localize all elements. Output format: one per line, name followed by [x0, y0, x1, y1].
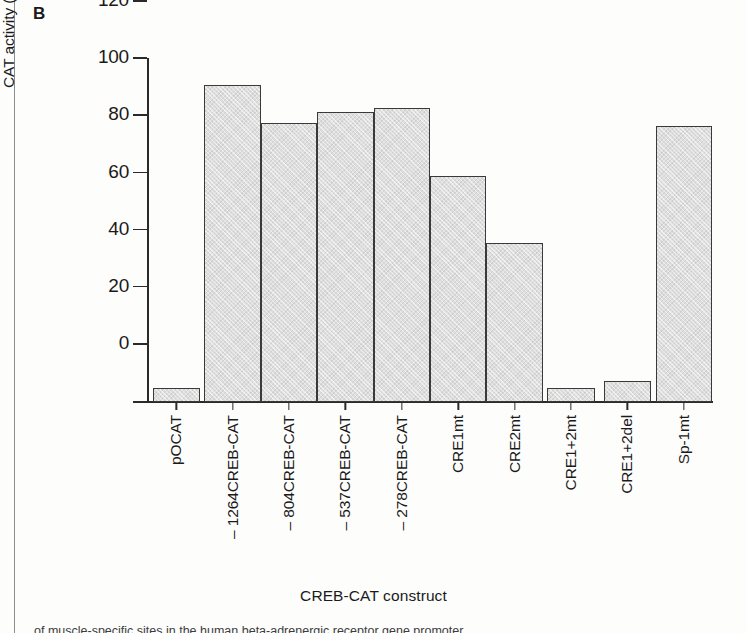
bar-slot — [317, 59, 373, 402]
bar — [656, 126, 712, 402]
y-axis-tick-label: 40 — [108, 218, 129, 240]
x-axis-tick-slot: – 278CREB-CAT — [374, 403, 430, 573]
bar-slot — [543, 59, 599, 402]
x-axis-tick-slot: – 537CREB-CAT — [317, 403, 373, 573]
x-axis-tick — [232, 403, 233, 410]
bar — [430, 176, 486, 402]
x-axis-tick-labels: pOCAT– 1264CREB-CAT– 804CREB-CAT– 537CRE… — [148, 403, 712, 573]
bar — [604, 381, 651, 402]
x-axis-tick-label: CRE1+2del — [618, 415, 636, 494]
x-axis-tick — [458, 403, 459, 410]
x-axis-tick-slot: CRE1+2del — [599, 403, 655, 573]
x-axis-tick-slot: Sp-1mt — [656, 403, 712, 573]
bar — [261, 123, 317, 402]
x-axis-tick-slot: – 804CREB-CAT — [261, 403, 317, 573]
x-axis-tick — [288, 403, 289, 410]
y-axis-tick-label: 0 — [119, 332, 129, 354]
y-axis-tick — [133, 114, 147, 116]
x-axis-tick-label: – 804CREB-CAT — [280, 415, 298, 531]
caption-fragment: of muscle-specific sites in the human be… — [34, 624, 724, 633]
x-axis-tick-label: Sp-1mt — [675, 415, 693, 464]
x-axis-tick-label: pOCAT — [167, 415, 185, 465]
x-axis-tick-slot: – 1264CREB-CAT — [204, 403, 260, 573]
x-axis-tick-label: – 1264CREB-CAT — [224, 415, 242, 539]
x-axis-tick-label: CRE1+2mt — [562, 415, 580, 490]
bar — [374, 108, 430, 402]
x-axis-tick — [514, 403, 515, 410]
x-axis-tick-label: – 278CREB-CAT — [393, 415, 411, 531]
bar-slot — [148, 59, 204, 402]
x-axis-tick — [345, 403, 346, 410]
y-axis-ticks: 020406080100120 — [0, 0, 147, 345]
bar-slot — [599, 59, 655, 402]
bar-slot — [656, 59, 712, 402]
x-axis-tick-label: CRE2mt — [506, 415, 524, 473]
x-axis-tick — [401, 403, 402, 410]
bar — [547, 388, 594, 402]
y-axis-tick — [133, 57, 147, 59]
y-axis-tick-label: 80 — [108, 103, 129, 125]
y-axis-tick — [133, 0, 147, 2]
y-axis-tick — [133, 172, 147, 174]
bar-slot — [204, 59, 260, 402]
x-axis-tick — [570, 403, 571, 410]
bar — [153, 388, 200, 402]
y-axis-tick-label: 100 — [98, 46, 129, 68]
y-axis-tick-label: 120 — [98, 0, 129, 11]
x-axis-title: CREB-CAT construct — [0, 587, 747, 605]
y-axis-tick-label: 60 — [108, 161, 129, 183]
bar — [317, 112, 373, 402]
y-axis-tick-label: 20 — [108, 275, 129, 297]
x-axis-tick-slot: pOCAT — [148, 403, 204, 573]
x-axis-tick — [627, 403, 628, 410]
x-axis-tick — [176, 403, 177, 410]
bar — [204, 85, 260, 402]
x-axis-tick-label: – 537CREB-CAT — [336, 415, 354, 531]
bar-slot — [261, 59, 317, 402]
y-axis-tick — [133, 286, 147, 288]
bar — [486, 243, 542, 402]
figure-panel: B Isoproterenol-induced increase in CAT … — [0, 0, 747, 633]
x-axis-tick — [683, 403, 684, 410]
x-axis-tick-label: CRE1mt — [449, 415, 467, 473]
x-axis-tick-slot: CRE1+2mt — [543, 403, 599, 573]
x-axis-tick-slot: CRE2mt — [486, 403, 542, 573]
bar-series — [148, 59, 712, 402]
y-axis-tick — [133, 229, 147, 231]
bar-slot — [374, 59, 430, 402]
bar-slot — [430, 59, 486, 402]
bar-slot — [486, 59, 542, 402]
x-axis-tick-slot: CRE1mt — [430, 403, 486, 573]
y-axis-tick — [133, 343, 147, 345]
